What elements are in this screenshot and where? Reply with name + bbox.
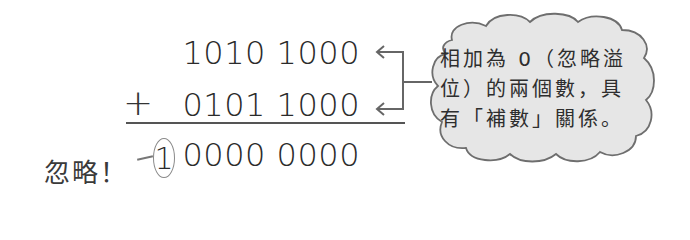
operand-1: 1010 1000	[182, 34, 360, 72]
operand-2: 0101 1000	[182, 86, 360, 124]
bracket-arrows	[377, 46, 432, 115]
callout-line: 相加為 0（忽略溢	[440, 44, 650, 74]
sum-line	[126, 122, 405, 124]
callout-line: 位）的兩個數，具	[440, 74, 650, 104]
callout-line: 有「補數」關係。	[440, 104, 650, 134]
ignore-label: 忽略！	[44, 152, 128, 189]
result-digits: 0000 0000	[182, 136, 360, 174]
circled-carry-digit: 1	[153, 138, 175, 178]
plus-sign: +	[123, 82, 153, 123]
callout-text: 相加為 0（忽略溢 位）的兩個數，具 有「補數」關係。	[440, 44, 650, 134]
